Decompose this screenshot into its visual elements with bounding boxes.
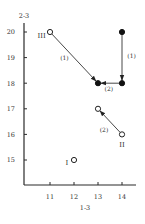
axes: [24, 23, 136, 185]
y-tick-label: 20: [7, 28, 15, 36]
arrow-label: (2): [105, 85, 114, 92]
x-tick-label: 12: [70, 193, 78, 201]
region-label: II: [119, 141, 125, 149]
x-axis-label: 1-3: [80, 204, 90, 212]
x-tick-label: 11: [46, 193, 54, 201]
filled-circle-point: [119, 29, 124, 34]
y-tick-label: 19: [7, 54, 15, 62]
open-circle-point: [95, 106, 100, 111]
y-tick-label: 16: [7, 131, 15, 139]
region-label: I: [65, 159, 68, 167]
y-tick-label: 17: [7, 105, 15, 113]
y-axis-label: 2-3: [19, 12, 29, 20]
open-circle-point: [71, 157, 76, 162]
x-tick-label: 13: [94, 193, 102, 201]
filled-circle-point: [95, 81, 100, 86]
region-labels: IIIIII: [37, 32, 125, 167]
filled-circle-point: [119, 81, 124, 86]
arrow-label: (1): [60, 54, 69, 61]
arrow-label: (2): [100, 126, 109, 133]
scatter-chart: 11121314 151617181920 2-3 1-3 (1)(1)(2)(…: [0, 0, 145, 224]
arrow-label: (1): [127, 52, 136, 59]
x-tick-label: 14: [118, 193, 126, 201]
open-circle-point: [47, 29, 52, 34]
transition-arrow: [52, 34, 96, 81]
y-tick-label: 15: [7, 156, 15, 164]
open-circle-point: [119, 132, 124, 137]
data-points: [47, 29, 124, 162]
region-label: III: [37, 32, 46, 40]
y-tick-label: 18: [7, 80, 15, 88]
